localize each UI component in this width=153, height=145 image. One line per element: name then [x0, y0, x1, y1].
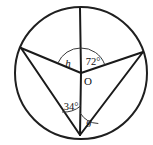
- geometry-figure: h 72° O 34° g: [0, 0, 153, 145]
- label-angle-72: 72°: [86, 56, 101, 67]
- label-angle-34: 34°: [64, 101, 79, 112]
- label-angle-h: h: [65, 57, 71, 69]
- label-angle-g: g: [86, 115, 92, 127]
- segment-center-to-top: [80, 8, 81, 73]
- label-center-o: O: [84, 75, 92, 87]
- geometry-diagram-svg: h 72° O 34° g: [0, 0, 153, 145]
- segment-center-to-bottom: [80, 73, 81, 135]
